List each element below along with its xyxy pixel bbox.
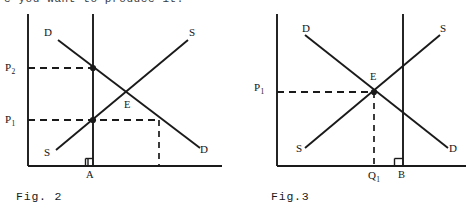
fig-3-label-equilibrium: E [370, 71, 376, 82]
fig-2-caption: Fig. 2 [16, 190, 62, 203]
figures-vector-canvas [0, 0, 466, 216]
fig-3-group [277, 14, 466, 166]
fig-3-point-equilibrium [371, 89, 377, 95]
fig-3-caption: Fig.3 [271, 190, 310, 203]
fig-3-label-supply-upper: S [440, 22, 446, 34]
fig-2-point-p2 [90, 65, 96, 71]
fig-2-label-p1: P1 [5, 113, 15, 128]
fig-2-label-quantity-a: A [86, 169, 94, 180]
fig-3-label-quantity-q1: Q1 [368, 169, 380, 184]
fig-2-label-p2: P2 [5, 61, 15, 76]
fig-2-label-demand-lower: D [200, 143, 208, 155]
fig-3-label-p1: P1 [254, 81, 264, 96]
fig-3-label-supply-lower: S [296, 142, 302, 154]
fig-2-point-p1 [90, 117, 96, 123]
fig-2-supply-curve [56, 40, 188, 150]
fig-2-label-equilibrium: E [124, 99, 130, 110]
figure-page: e you want to produce it. [0, 0, 466, 216]
fig-3-label-demand-upper: D [302, 22, 310, 34]
fig-2-label-supply-upper: S [189, 26, 195, 38]
fig-3-label-quantity-b: B [398, 169, 405, 180]
fig-2-label-demand-upper: D [44, 26, 52, 38]
fig-3-label-demand-lower: D [449, 142, 457, 154]
fig-2-label-supply-lower: S [44, 146, 50, 158]
